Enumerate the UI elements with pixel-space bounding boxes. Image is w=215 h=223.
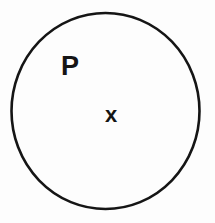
set-diagram-figure: P x — [0, 0, 215, 223]
set-label-p: P — [61, 53, 79, 80]
element-label-x: x — [105, 104, 117, 126]
